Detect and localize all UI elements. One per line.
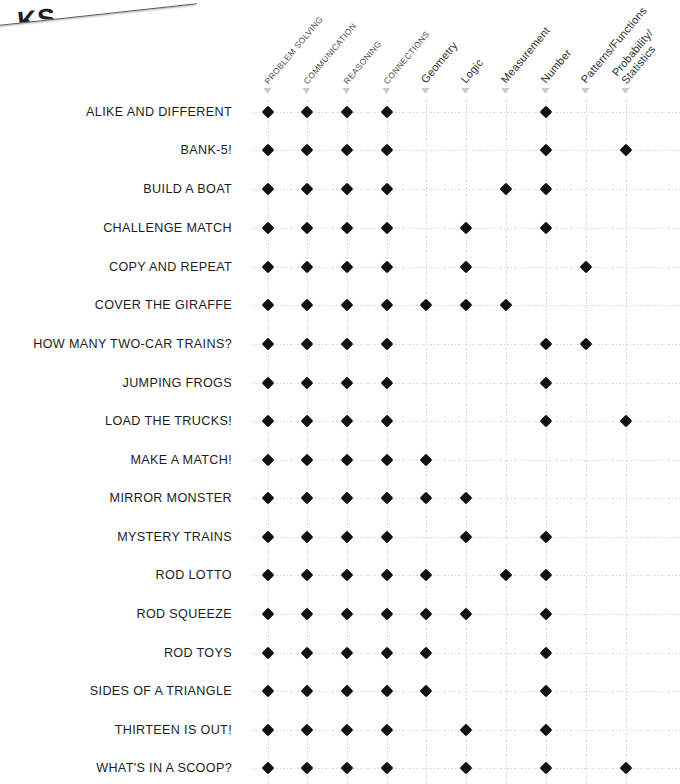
gridline-row-jumping-frogs xyxy=(252,383,680,384)
gridline-row-rod-lotto xyxy=(252,575,680,576)
row-label-challenge-match[interactable]: CHALLENGE MATCH xyxy=(103,221,232,235)
gridline-column-logic xyxy=(466,100,467,784)
row-label-rod-toys[interactable]: ROD TOYS xyxy=(164,646,232,660)
gridline-row-rod-toys xyxy=(252,653,680,654)
gridline-row-how-many-two-car-trains xyxy=(252,344,680,345)
row-label-make-a-match[interactable]: MAKE A MATCH! xyxy=(130,453,232,467)
row-label-rod-lotto[interactable]: ROD LOTTO xyxy=(156,568,232,582)
row-label-jumping-frogs[interactable]: JUMPING FROGS xyxy=(123,376,233,390)
row-label-mirror-monster[interactable]: MIRROR MONSTER xyxy=(110,491,232,505)
column-pointer-arrow-icon xyxy=(581,88,589,94)
column-pointer-arrow-icon xyxy=(342,88,350,94)
column-header-label: Logic xyxy=(458,57,485,86)
gridline-column-geometry xyxy=(426,100,427,784)
column-pointer-arrow-icon xyxy=(382,88,390,94)
gridline-column-measurement xyxy=(506,100,507,784)
row-label-cover-the-giraffe[interactable]: COVER THE GIRAFFE xyxy=(95,298,232,312)
row-label-thirteen-is-out[interactable]: THIRTEEN IS OUT! xyxy=(115,723,232,737)
gridline-row-make-a-match xyxy=(252,460,680,461)
row-label-what-s-in-a-scoop[interactable]: WHAT'S IN A SCOOP? xyxy=(96,761,232,775)
row-label-alike-and-different[interactable]: ALIKE AND DIFFERENT xyxy=(86,105,232,119)
column-header-label: Geometry xyxy=(418,40,459,86)
gridline-row-bank-5 xyxy=(252,150,680,151)
column-pointer-arrow-icon xyxy=(302,88,310,94)
column-pointer-arrow-icon xyxy=(501,88,509,94)
gridline-row-sides-of-a-triangle xyxy=(252,691,680,692)
column-pointer-arrow-icon xyxy=(421,88,429,94)
gridline-column-probability xyxy=(626,100,627,784)
column-header-reasoning[interactable]: REASONING xyxy=(342,39,383,86)
column-header-label: REASONING xyxy=(341,39,383,86)
gridline-column-patterns-functions xyxy=(586,100,587,784)
skill-matrix-chart: KS PROBLEM SOLVINGCOMMUNICATIONREASONING… xyxy=(0,0,680,784)
row-label-rod-squeeze[interactable]: ROD SQUEEZE xyxy=(136,607,232,621)
column-pointer-arrow-icon xyxy=(263,88,271,94)
gridline-row-load-the-trucks xyxy=(252,421,680,422)
gridline-row-build-a-boat xyxy=(252,189,680,190)
gridline-row-alike-and-different xyxy=(252,112,680,113)
column-pointer-arrow-icon xyxy=(541,88,549,94)
row-label-bank-5[interactable]: BANK-5! xyxy=(181,143,232,157)
gridline-column-number xyxy=(546,100,547,784)
column-pointer-arrow-icon xyxy=(621,88,629,94)
row-label-sides-of-a-triangle[interactable]: SIDES OF A TRIANGLE xyxy=(90,684,232,698)
gridline-column-problem-solving xyxy=(268,100,269,784)
column-header-geometry[interactable]: Geometry xyxy=(419,40,460,86)
column-header-logic[interactable]: Logic xyxy=(459,58,485,86)
column-header-row: PROBLEM SOLVINGCOMMUNICATIONREASONINGCON… xyxy=(0,0,680,104)
row-label-load-the-trucks[interactable]: LOAD THE TRUCKS! xyxy=(105,414,232,428)
row-label-mystery-trains[interactable]: MYSTERY TRAINS xyxy=(117,530,232,544)
gridline-column-reasoning xyxy=(347,100,348,784)
row-label-build-a-boat[interactable]: BUILD A BOAT xyxy=(143,182,232,196)
gridline-column-connections xyxy=(387,100,388,784)
column-header-number[interactable]: Number xyxy=(539,48,574,86)
row-label-copy-and-repeat[interactable]: COPY AND REPEAT xyxy=(109,260,232,274)
gridline-column-communication xyxy=(307,100,308,784)
column-header-label: Number xyxy=(538,47,573,86)
row-label-how-many-two-car-trains[interactable]: HOW MANY TWO-CAR TRAINS? xyxy=(33,337,232,351)
column-pointer-arrow-icon xyxy=(461,88,469,94)
